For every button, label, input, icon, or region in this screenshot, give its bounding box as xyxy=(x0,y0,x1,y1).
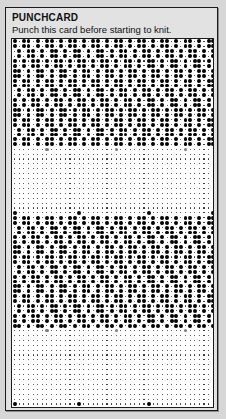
grid-position-dot[interactable] xyxy=(79,247,80,248)
grid-position-dot[interactable] xyxy=(185,232,186,233)
grid-position-dot[interactable] xyxy=(208,403,209,404)
punched-hole[interactable] xyxy=(119,128,123,132)
grid-position-dot[interactable] xyxy=(148,188,149,189)
grid-position-dot[interactable] xyxy=(42,384,43,385)
grid-position-dot[interactable] xyxy=(162,354,163,355)
grid-position-dot[interactable] xyxy=(185,310,186,311)
punched-hole[interactable] xyxy=(207,79,211,83)
grid-position-dot[interactable] xyxy=(19,80,20,81)
grid-position-dot[interactable] xyxy=(88,256,89,257)
grid-position-dot[interactable] xyxy=(167,198,168,199)
grid-position-dot[interactable] xyxy=(203,80,204,81)
grid-position-dot[interactable] xyxy=(28,100,29,101)
grid-position-dot[interactable] xyxy=(190,399,191,400)
punched-hole[interactable] xyxy=(124,270,128,274)
punched-hole[interactable] xyxy=(151,245,155,249)
punched-hole[interactable] xyxy=(105,108,109,112)
grid-position-dot[interactable] xyxy=(162,90,163,91)
grid-position-dot[interactable] xyxy=(19,335,20,336)
grid-position-dot[interactable] xyxy=(97,384,98,385)
grid-position-dot[interactable] xyxy=(125,374,126,375)
grid-position-dot[interactable] xyxy=(37,193,38,194)
grid-position-dot[interactable] xyxy=(106,345,107,346)
grid-position-dot[interactable] xyxy=(190,315,191,316)
grid-position-dot[interactable] xyxy=(111,149,112,150)
punched-hole[interactable] xyxy=(193,231,197,235)
grid-position-dot[interactable] xyxy=(28,198,29,199)
punched-hole[interactable] xyxy=(73,123,77,127)
punched-hole[interactable] xyxy=(151,240,155,244)
grid-position-dot[interactable] xyxy=(65,374,66,375)
grid-position-dot[interactable] xyxy=(19,173,20,174)
grid-position-dot[interactable] xyxy=(199,350,200,351)
grid-position-dot[interactable] xyxy=(125,335,126,336)
punched-hole[interactable] xyxy=(82,98,86,102)
grid-position-dot[interactable] xyxy=(23,149,24,150)
grid-position-dot[interactable] xyxy=(171,340,172,341)
grid-position-dot[interactable] xyxy=(37,266,38,267)
grid-position-dot[interactable] xyxy=(93,291,94,292)
punched-hole[interactable] xyxy=(87,309,91,313)
grid-position-dot[interactable] xyxy=(162,129,163,130)
grid-position-dot[interactable] xyxy=(33,291,34,292)
punched-hole[interactable] xyxy=(50,93,54,97)
punched-hole[interactable] xyxy=(40,128,44,132)
punched-hole[interactable] xyxy=(207,142,211,146)
punched-hole[interactable] xyxy=(54,93,58,97)
grid-position-dot[interactable] xyxy=(176,227,177,228)
punched-hole[interactable] xyxy=(133,113,137,117)
grid-position-dot[interactable] xyxy=(46,114,47,115)
punched-hole[interactable] xyxy=(174,44,178,48)
grid-position-dot[interactable] xyxy=(134,207,135,208)
grid-position-dot[interactable] xyxy=(28,315,29,316)
grid-position-dot[interactable] xyxy=(56,163,57,164)
grid-position-dot[interactable] xyxy=(37,350,38,351)
punched-hole[interactable] xyxy=(188,221,192,225)
grid-position-dot[interactable] xyxy=(33,359,34,360)
grid-position-dot[interactable] xyxy=(102,212,103,213)
punched-hole[interactable] xyxy=(105,324,109,328)
grid-position-dot[interactable] xyxy=(120,399,121,400)
punched-hole[interactable] xyxy=(193,128,197,132)
grid-position-dot[interactable] xyxy=(180,168,181,169)
punched-hole[interactable] xyxy=(207,299,211,303)
grid-position-dot[interactable] xyxy=(171,217,172,218)
punched-hole[interactable] xyxy=(156,88,160,92)
grid-position-dot[interactable] xyxy=(162,75,163,76)
punched-hole[interactable] xyxy=(193,275,197,279)
grid-position-dot[interactable] xyxy=(74,320,75,321)
punched-hole[interactable] xyxy=(165,84,169,88)
grid-position-dot[interactable] xyxy=(42,154,43,155)
grid-position-dot[interactable] xyxy=(46,154,47,155)
punched-hole[interactable] xyxy=(77,59,81,63)
grid-position-dot[interactable] xyxy=(102,85,103,86)
grid-position-dot[interactable] xyxy=(37,330,38,331)
punched-hole[interactable] xyxy=(188,88,192,92)
punched-hole[interactable] xyxy=(40,93,44,97)
grid-position-dot[interactable] xyxy=(79,149,80,150)
grid-position-dot[interactable] xyxy=(185,340,186,341)
punched-hole[interactable] xyxy=(133,226,137,230)
punched-hole[interactable] xyxy=(82,240,86,244)
punched-hole[interactable] xyxy=(114,103,118,107)
punched-hole[interactable] xyxy=(193,98,197,102)
punched-hole[interactable] xyxy=(82,44,86,48)
grid-position-dot[interactable] xyxy=(134,163,135,164)
grid-position-dot[interactable] xyxy=(60,330,61,331)
grid-position-dot[interactable] xyxy=(33,369,34,370)
punched-hole[interactable] xyxy=(142,324,146,328)
grid-position-dot[interactable] xyxy=(153,330,154,331)
punched-hole[interactable] xyxy=(119,44,123,48)
grid-position-dot[interactable] xyxy=(111,394,112,395)
grid-position-dot[interactable] xyxy=(180,80,181,81)
grid-position-dot[interactable] xyxy=(111,173,112,174)
punched-hole[interactable] xyxy=(50,84,54,88)
grid-position-dot[interactable] xyxy=(148,374,149,375)
grid-position-dot[interactable] xyxy=(190,193,191,194)
grid-position-dot[interactable] xyxy=(130,359,131,360)
punched-hole[interactable] xyxy=(197,59,201,63)
grid-position-dot[interactable] xyxy=(208,394,209,395)
grid-position-dot[interactable] xyxy=(28,173,29,174)
grid-position-dot[interactable] xyxy=(199,193,200,194)
grid-position-dot[interactable] xyxy=(130,369,131,370)
